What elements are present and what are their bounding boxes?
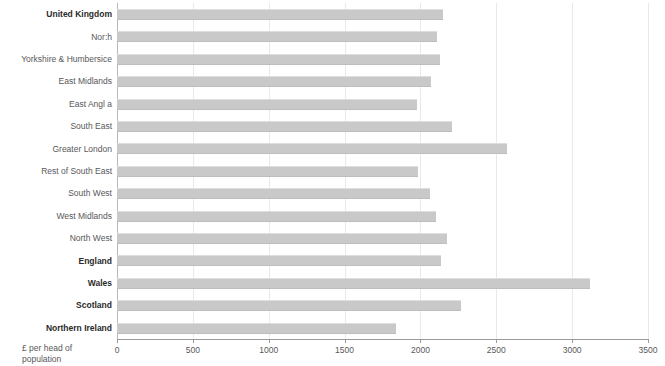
bar-row xyxy=(117,205,648,227)
bar-row xyxy=(117,294,648,316)
bar-row xyxy=(117,25,648,47)
x-axis-tick xyxy=(420,339,421,343)
category-label: South East xyxy=(0,121,112,131)
x-axis-tick-label: 1500 xyxy=(335,345,354,355)
bar-row xyxy=(117,160,648,182)
x-axis-tick-label: 3500 xyxy=(639,345,658,355)
x-axis-tick-label: 2000 xyxy=(411,345,430,355)
bar-row xyxy=(117,93,648,115)
x-axis-line xyxy=(117,339,648,340)
bar xyxy=(117,233,447,244)
bar xyxy=(117,323,396,334)
bar xyxy=(117,211,436,222)
bar-row xyxy=(117,115,648,137)
bar xyxy=(117,31,437,42)
plot-area xyxy=(117,3,648,339)
category-label: West Midlands xyxy=(0,211,112,221)
category-label: England xyxy=(0,256,112,266)
x-axis-tick xyxy=(572,339,573,343)
x-axis-title-line2: population xyxy=(22,354,117,365)
bar xyxy=(117,188,430,199)
x-axis-tick-label: 2500 xyxy=(487,345,506,355)
category-label: Rest of South East xyxy=(0,166,112,176)
bar xyxy=(117,143,507,154)
x-axis-tick xyxy=(193,339,194,343)
bar-row xyxy=(117,272,648,294)
x-axis-tick-label: 1000 xyxy=(259,345,278,355)
category-label: Northern Ireland xyxy=(0,323,112,333)
bar xyxy=(117,255,441,266)
x-axis-tick xyxy=(117,339,118,343)
bar-row xyxy=(117,182,648,204)
bars-layer xyxy=(117,3,648,339)
category-label: North West xyxy=(0,233,112,243)
bar-row xyxy=(117,249,648,271)
x-axis-tick xyxy=(648,339,649,343)
bar xyxy=(117,300,461,311)
category-label: Wales xyxy=(0,278,112,288)
bar xyxy=(117,9,443,20)
category-axis-labels: United KingdomNor:hYorkshire & Humbersic… xyxy=(0,3,112,339)
category-label: Yorkshire & Humbersice xyxy=(0,54,112,64)
x-axis-title-line1: £ per head of xyxy=(22,343,117,354)
bar-row xyxy=(117,317,648,339)
x-axis-tick xyxy=(496,339,497,343)
x-axis-title: £ per head of population xyxy=(22,343,117,365)
bar xyxy=(117,99,417,110)
bar xyxy=(117,54,440,65)
bar xyxy=(117,76,431,87)
bar xyxy=(117,278,590,289)
bar-row xyxy=(117,227,648,249)
category-label: East Angl a xyxy=(0,99,112,109)
x-axis-tick xyxy=(269,339,270,343)
x-axis-tick xyxy=(345,339,346,343)
category-label: United Kingdom xyxy=(0,9,112,19)
category-label: Scotland xyxy=(0,300,112,310)
category-label: Greater London xyxy=(0,144,112,154)
bar-row xyxy=(117,3,648,25)
gridline xyxy=(648,3,649,339)
x-axis-tick-label: 500 xyxy=(186,345,200,355)
bar-row xyxy=(117,137,648,159)
category-label: East Midlands xyxy=(0,76,112,86)
category-label: South West xyxy=(0,188,112,198)
bar xyxy=(117,166,418,177)
bar-row xyxy=(117,70,648,92)
bar-row xyxy=(117,48,648,70)
x-axis-tick-label: 3000 xyxy=(563,345,582,355)
bar-chart: United KingdomNor:hYorkshire & Humbersic… xyxy=(0,0,665,366)
category-label: Nor:h xyxy=(0,32,112,42)
bar xyxy=(117,121,452,132)
